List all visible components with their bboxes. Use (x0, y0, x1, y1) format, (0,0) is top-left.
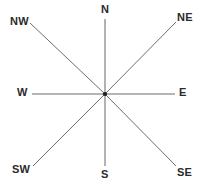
label-north: N (101, 4, 109, 15)
compass-rose-diagram: N NE E SE S SW W NW (0, 0, 204, 187)
label-southwest: SW (12, 164, 30, 175)
compass-center-point (103, 92, 107, 96)
label-west: W (17, 87, 28, 98)
ray-southeast (105, 94, 176, 166)
label-south: S (101, 169, 109, 180)
label-northwest: NW (10, 16, 29, 27)
ray-southwest (33, 94, 105, 166)
label-southeast: SE (177, 167, 192, 178)
label-northeast: NE (177, 12, 193, 23)
label-east: E (179, 87, 187, 98)
ray-northwest (30, 23, 105, 94)
ray-northeast (105, 22, 176, 94)
compass-rays-group (0, 0, 204, 187)
